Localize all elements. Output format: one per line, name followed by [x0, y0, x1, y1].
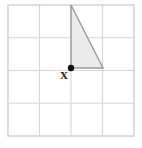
marked-point-dot: [68, 65, 74, 71]
grid-triangle-figure: X: [0, 0, 142, 148]
marked-point-label: X: [60, 69, 68, 81]
figure-container: X: [0, 0, 142, 148]
